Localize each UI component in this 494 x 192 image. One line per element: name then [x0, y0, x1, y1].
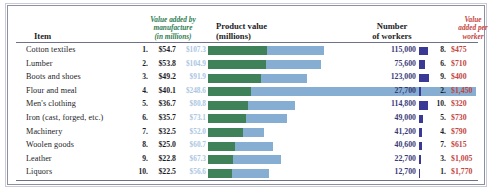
table-body: Cotton textiles1.$54.7$107.3115,0008.$47… — [8, 44, 484, 180]
row-value-added-amount: $32.5 — [150, 127, 176, 136]
row-per-worker-rank: 5. — [432, 113, 446, 122]
row-value-added-rank: 2. — [132, 59, 148, 68]
row-per-worker-amount: $710 — [449, 59, 489, 68]
row-product-value-amount: $60.7 — [177, 140, 206, 149]
row-value-added-amount: $54.7 — [150, 45, 176, 54]
row-value-added-amount: $36.7 — [150, 99, 176, 108]
row-per-worker-rank: 4. — [432, 127, 446, 136]
value-added-bar — [208, 169, 232, 178]
row-per-worker-amount: $1,450 — [449, 86, 489, 95]
row-item-label: Woolen goods — [26, 140, 74, 149]
row-workers-count: 123,000 — [342, 72, 416, 81]
workers-bar — [419, 87, 421, 96]
row-per-worker-rank: 9. — [432, 72, 446, 81]
row-bar-group — [208, 114, 287, 123]
table-row: Machinery7.$32.5$52.041,2004.$790 — [8, 126, 484, 140]
row-per-worker-amount: $790 — [449, 127, 489, 136]
row-bar-group — [208, 46, 324, 55]
row-item-label: Liquors — [26, 167, 52, 176]
workers-bar — [419, 155, 421, 164]
value-added-bar — [208, 155, 233, 164]
row-per-worker-rank: 2. — [432, 86, 446, 95]
row-value-added-rank: 3. — [132, 72, 148, 81]
workers-bar — [419, 60, 425, 69]
row-bar-group — [208, 101, 295, 110]
row-item-label: Leather — [26, 154, 52, 163]
table-row: Leather9.$22.8$67.322,7003.$1,005 — [8, 153, 484, 167]
row-value-added-amount: $22.5 — [150, 167, 176, 176]
row-per-worker-amount: $400 — [449, 72, 489, 81]
value-added-bar — [208, 60, 266, 69]
row-per-worker-rank: 8. — [432, 45, 446, 54]
row-bar-group — [208, 142, 273, 151]
value-added-bar — [208, 74, 261, 83]
table-bottom-divider — [16, 180, 478, 181]
row-value-added-amount: $40.1 — [150, 86, 176, 95]
column-header-value-per-worker: Value added per worker — [448, 16, 494, 41]
row-bar-group — [208, 155, 281, 164]
value-added-bar — [208, 87, 251, 96]
row-value-added-rank: 6. — [132, 113, 148, 122]
row-per-worker-amount: $1,770 — [449, 167, 489, 176]
row-per-worker-rank: 10. — [432, 99, 446, 108]
row-workers-count: 22,700 — [342, 154, 416, 163]
value-added-bar — [208, 46, 267, 55]
row-value-added-rank: 1. — [132, 45, 148, 54]
row-item-label: Flour and meal — [26, 86, 77, 95]
row-workers-count: 40,600 — [342, 140, 416, 149]
workers-bar — [419, 47, 428, 56]
row-value-added-amount: $22.8 — [150, 154, 176, 163]
column-header-product-value-line2: (millions) — [216, 31, 312, 41]
row-bar-group — [208, 74, 307, 83]
workers-bar — [419, 169, 420, 178]
row-value-added-amount: $35.7 — [150, 113, 176, 122]
row-value-added-amount: $53.8 — [150, 59, 176, 68]
row-per-worker-rank: 6. — [432, 59, 446, 68]
value-added-bar — [208, 101, 248, 110]
row-value-added-rank: 5. — [132, 99, 148, 108]
table-row: Liquors10.$22.5$56.612,7001.$1,770 — [8, 166, 484, 180]
table-header-row: Item Value added by manufacture (in mill… — [16, 10, 478, 43]
column-header-per-worker-line3: worker — [448, 33, 494, 41]
row-item-label: Iron (cast, forged, etc.) — [26, 113, 103, 122]
table-row: Cotton textiles1.$54.7$107.3115,0008.$47… — [8, 44, 484, 58]
row-workers-count: 49,000 — [342, 113, 416, 122]
row-product-value-amount: $107.3 — [177, 45, 206, 54]
row-per-worker-amount: $320 — [449, 99, 489, 108]
value-added-bar — [208, 142, 235, 151]
row-product-value-amount: $80.8 — [177, 99, 206, 108]
row-workers-count: 114,800 — [342, 99, 416, 108]
row-value-added-rank: 7. — [132, 127, 148, 136]
row-bar-group — [208, 169, 269, 178]
row-per-worker-amount: $615 — [449, 140, 489, 149]
workers-bar — [419, 142, 422, 151]
workers-bar — [419, 101, 428, 110]
row-product-value-amount: $91.9 — [177, 72, 206, 81]
row-value-added-rank: 4. — [132, 86, 148, 95]
row-workers-count: 41,200 — [342, 127, 416, 136]
value-added-bar — [208, 114, 246, 123]
row-product-value-amount: $56.6 — [177, 167, 206, 176]
row-product-value-amount: $104.9 — [177, 59, 206, 68]
value-added-bar — [208, 128, 243, 137]
row-per-worker-rank: 7. — [432, 140, 446, 149]
row-item-label: Boots and shoes — [26, 72, 81, 81]
column-header-workers-line1: Number — [356, 21, 428, 31]
table-row: Iron (cast, forged, etc.)6.$35.7$73.149,… — [8, 112, 484, 126]
column-header-product-value-line1: Product value — [216, 21, 312, 31]
header-divider — [16, 42, 478, 43]
row-workers-count: 115,000 — [342, 45, 416, 54]
row-product-value-amount: $248.6 — [177, 86, 206, 95]
column-header-value-added: Value added by manufacture (in millions) — [142, 16, 204, 41]
row-per-worker-amount: $1,005 — [449, 154, 489, 163]
row-item-label: Machinery — [26, 127, 62, 136]
row-bar-group — [208, 128, 264, 137]
row-item-label: Cotton textiles — [26, 45, 76, 54]
column-header-workers: Number of workers — [356, 21, 428, 41]
row-value-added-rank: 8. — [132, 140, 148, 149]
manufacturing-statistics-table: Item Value added by manufacture (in mill… — [8, 6, 484, 184]
table-row: Woolen goods8.$25.0$60.740,6007.$615 — [8, 139, 484, 153]
column-header-value-added-line3: (in millions) — [142, 33, 204, 41]
row-workers-count: 75,600 — [342, 59, 416, 68]
table-row: Boots and shoes3.$49.2$91.9123,0009.$400 — [8, 71, 484, 85]
